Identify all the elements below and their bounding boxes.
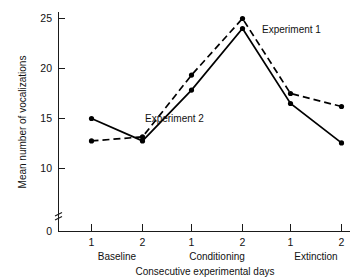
series-markers-experiment-1 bbox=[89, 16, 344, 144]
x-tick-label-conditioning-2: 2 bbox=[240, 236, 246, 248]
x-tick-label-baseline-2: 2 bbox=[140, 236, 146, 248]
annotation-experiment-1: Experiment 1 bbox=[262, 24, 321, 35]
vocalizations-line-chart: 25 20 15 10 0 1 2 1 2 1 2 Baseline Condi… bbox=[0, 0, 357, 279]
x-tick-label-conditioning-1: 1 bbox=[189, 236, 195, 248]
x-tick-label-extinction-2: 2 bbox=[339, 236, 345, 248]
series-markers-experiment-2 bbox=[89, 26, 344, 146]
y-axis-title: Mean number of vocalizations bbox=[17, 56, 28, 189]
x-axis-title: Consecutive experimental days bbox=[136, 266, 275, 277]
x-tick-label-extinction-1: 1 bbox=[288, 236, 294, 248]
series-line-experiment-1 bbox=[92, 19, 342, 141]
series-line-experiment-2 bbox=[92, 29, 342, 143]
annotation-experiment-2: Experiment 2 bbox=[145, 113, 204, 124]
chart-plot-area: 25 20 15 10 0 1 2 1 2 1 2 Baseline Condi… bbox=[0, 0, 357, 279]
y-tick-label-15: 15 bbox=[40, 112, 52, 124]
y-tick-label-20: 20 bbox=[40, 62, 52, 74]
x-group-label-conditioning: Conditioning bbox=[189, 251, 245, 262]
y-axis-ticks bbox=[59, 19, 66, 169]
x-group-label-baseline: Baseline bbox=[98, 251, 137, 262]
x-axis-ticks bbox=[92, 224, 342, 232]
x-tick-label-baseline-1: 1 bbox=[89, 236, 95, 248]
x-group-label-extinction: Extinction bbox=[294, 251, 337, 262]
y-tick-label-25: 25 bbox=[40, 12, 52, 24]
y-tick-label-0: 0 bbox=[46, 225, 52, 237]
y-tick-label-10: 10 bbox=[40, 162, 52, 174]
